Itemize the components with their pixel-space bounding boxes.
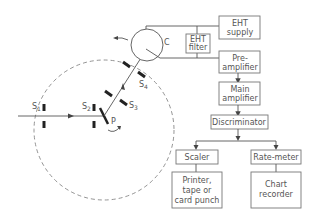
svg-text:Scaler: Scaler xyxy=(185,153,211,162)
rotation-arc xyxy=(108,127,120,131)
slit-s4-left xyxy=(123,62,130,67)
label-s1: S1 xyxy=(32,102,41,112)
svg-text:card punch: card punch xyxy=(175,196,220,205)
label-s3: S3 xyxy=(129,101,138,111)
label-s4: S4 xyxy=(139,80,148,90)
split-arrow-icon xyxy=(236,136,241,141)
svg-text:recorder: recorder xyxy=(259,190,293,199)
svg-text:Discriminator: Discriminator xyxy=(212,118,266,127)
label-s2: S2 xyxy=(82,102,91,112)
svg-text:Pre-: Pre- xyxy=(232,54,248,63)
counter-motion-arrow-icon xyxy=(113,36,118,40)
diffractometer-diagram: S1 S2 P S3 S4 C EHT filter EHT supply Pr… xyxy=(0,0,318,222)
counter-c xyxy=(131,29,163,61)
label-c: C xyxy=(164,38,170,47)
svg-text:amplifier: amplifier xyxy=(222,63,258,72)
svg-text:tape or: tape or xyxy=(183,186,212,195)
svg-text:Main: Main xyxy=(230,85,249,94)
svg-text:Printer,: Printer, xyxy=(182,176,211,185)
split-bar xyxy=(196,141,276,146)
slit-s3-right xyxy=(120,100,127,105)
svg-text:amplifier: amplifier xyxy=(222,94,258,103)
slit-s3-left xyxy=(105,91,112,96)
svg-text:Rate-meter: Rate-meter xyxy=(253,153,299,162)
beam-arrow-icon xyxy=(68,114,74,119)
arrow-to-ratemeter-icon xyxy=(274,145,279,150)
label-p: P xyxy=(111,117,116,126)
svg-text:Chart: Chart xyxy=(265,180,287,189)
goniometer-circle xyxy=(34,60,174,200)
svg-text:filter: filter xyxy=(189,43,208,52)
svg-text:EHT: EHT xyxy=(232,19,248,28)
arrow-to-scaler-icon xyxy=(194,145,199,150)
svg-text:supply: supply xyxy=(227,28,254,37)
